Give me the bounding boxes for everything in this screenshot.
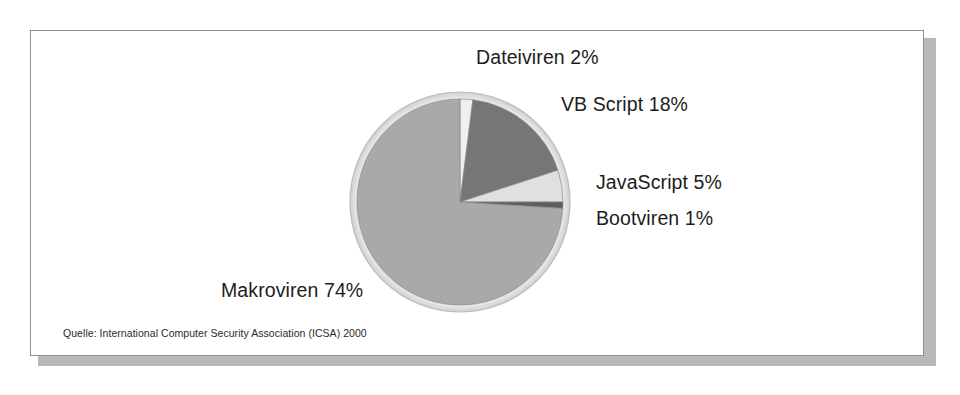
slice-label-bootviren: Bootviren 1% xyxy=(596,207,713,230)
slice-label-javascript: JavaScript 5% xyxy=(596,171,722,194)
pie-chart: Dateiviren 2% VB Script 18% JavaScript 5… xyxy=(31,31,925,357)
pie-svg xyxy=(349,91,571,313)
slice-label-makroviren: Makroviren 74% xyxy=(221,279,363,302)
figure-frame: Dateiviren 2% VB Script 18% JavaScript 5… xyxy=(30,30,924,356)
pie-slice-group xyxy=(357,99,563,305)
source-note: Quelle: International Computer Security … xyxy=(63,327,367,339)
slice-label-dateiviren: Dateiviren 2% xyxy=(476,46,599,69)
slice-label-vb-script: VB Script 18% xyxy=(561,93,688,116)
pie-graphic xyxy=(349,91,571,313)
